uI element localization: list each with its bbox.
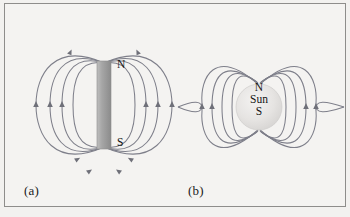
field-arrow-right-2 xyxy=(155,101,161,107)
field-line-2-mirror xyxy=(50,59,104,152)
panel-a-caption: (a) xyxy=(24,183,39,199)
field-arrow-left-1 xyxy=(33,101,39,107)
field-arrow-right-3 xyxy=(143,101,149,107)
panel-bar-magnet: N S (a) xyxy=(4,3,176,207)
field-arrow-right-1 xyxy=(169,101,175,107)
bar-magnet-north-label: N xyxy=(117,58,125,70)
sun-body-label: Sun xyxy=(235,93,283,105)
field-arrow-left-3 xyxy=(59,101,65,107)
field-arrow-left-2 xyxy=(47,101,53,107)
field-arrow-bottom-right xyxy=(128,156,135,163)
sun-north-label: N xyxy=(235,81,283,93)
panel-sun: N Sun S (b) xyxy=(176,3,346,207)
sun-field-arrow-right-2 xyxy=(303,103,309,109)
bar-magnet-field-diagram xyxy=(4,3,176,207)
panel-b-caption: (b) xyxy=(188,183,204,199)
sun-label-stack: N Sun S xyxy=(235,81,283,117)
bar-magnet-body xyxy=(97,61,111,149)
field-arrow-bottom-outer-right xyxy=(116,168,123,175)
bar-magnet-south-label: S xyxy=(117,136,123,148)
field-arrow-bottom-outer-left xyxy=(85,168,92,175)
sun-field-arrow-left-2 xyxy=(209,103,215,109)
field-arrow-top-left xyxy=(66,49,73,56)
field-arrow-top-right xyxy=(135,49,142,56)
field-arrow-bottom-left xyxy=(73,156,80,163)
figure-container: N S (a) xyxy=(0,0,350,217)
sun-south-label: S xyxy=(235,105,283,117)
field-line-2 xyxy=(104,59,158,152)
